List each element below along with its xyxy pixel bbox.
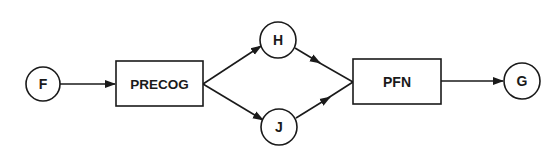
- node-pfn: PFN: [353, 59, 441, 104]
- node-precog: PRECOG: [116, 61, 203, 106]
- node-g: G: [504, 63, 540, 99]
- edge-precog-to-h: [203, 46, 261, 84]
- node-h-label: H: [273, 32, 283, 48]
- node-f-label: F: [39, 76, 48, 92]
- node-precog-label: PRECOG: [130, 77, 189, 92]
- edge-h-to-pfn: [295, 48, 320, 63]
- node-g-label: G: [517, 73, 528, 89]
- edge-j-to-pfn: [296, 97, 330, 118]
- flow-diagram: F PRECOG H J PFN G: [0, 0, 560, 159]
- edge-precog-to-j: [203, 84, 263, 120]
- node-j: J: [261, 109, 297, 145]
- node-f: F: [26, 67, 60, 101]
- node-j-label: J: [275, 119, 283, 135]
- node-pfn-label: PFN: [383, 74, 411, 90]
- node-h: H: [260, 22, 296, 58]
